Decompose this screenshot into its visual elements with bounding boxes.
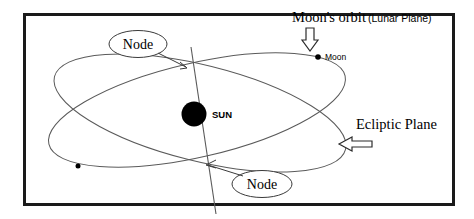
node-top-label: Node bbox=[123, 37, 153, 52]
sun-body bbox=[182, 102, 207, 127]
orbital-diagram: SUN Moon Moon's orbit (Lunar Plane) Ecli… bbox=[0, 0, 474, 219]
moon-secondary-position-dot bbox=[76, 164, 81, 169]
figure-canvas: SUN Moon Moon's orbit (Lunar Plane) Ecli… bbox=[0, 0, 474, 219]
moons-orbit-label: Moon's orbit bbox=[292, 9, 366, 25]
moon-body bbox=[315, 54, 321, 60]
ecliptic-plane-label: Ecliptic Plane bbox=[356, 116, 437, 132]
node-bottom-label: Node bbox=[247, 177, 277, 192]
lunar-plane-label: (Lunar Plane) bbox=[368, 12, 432, 24]
moon-label: Moon bbox=[325, 52, 347, 62]
sun-label: SUN bbox=[212, 109, 232, 120]
